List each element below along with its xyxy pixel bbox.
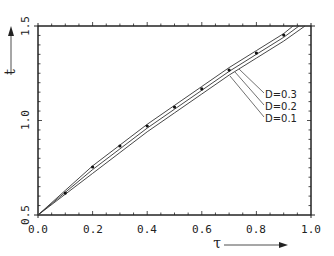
data-point — [228, 68, 231, 71]
x-tick-label: 0.4 — [137, 223, 157, 236]
y-axis-title: t — [2, 69, 18, 75]
data-point — [255, 51, 258, 54]
x-tick-label: 1.0 — [301, 223, 321, 236]
x-axis-title: τ — [213, 235, 221, 251]
series-line — [38, 26, 299, 215]
data-point — [282, 33, 285, 36]
series-line — [38, 26, 293, 215]
line-chart: 0.0 0.2 0.4 0.6 0.8 1.0 0.5 1.0 1.5 τ t … — [0, 0, 334, 256]
x-axis-arrow-icon — [279, 242, 288, 248]
series-label-d01: D=0.1 — [265, 113, 297, 124]
leader-line-d01 — [230, 76, 264, 117]
x-tick-label: 0.6 — [192, 223, 212, 236]
data-point — [146, 124, 149, 127]
data-point — [64, 191, 67, 194]
data-point — [91, 165, 94, 168]
y-tick-label: 1.0 — [19, 110, 32, 130]
data-point — [118, 144, 121, 147]
y-tick-label: 0.5 — [19, 205, 32, 225]
x-tick-label: 0.8 — [246, 223, 266, 236]
series-label-d03: D=0.3 — [265, 89, 297, 100]
y-tick-label: 1.5 — [19, 16, 32, 36]
data-point — [173, 105, 176, 108]
series-label-d02: D=0.2 — [265, 101, 297, 112]
data-point — [200, 87, 203, 90]
y-axis-arrow-icon — [8, 26, 14, 36]
x-tick-label: 0.2 — [83, 223, 103, 236]
